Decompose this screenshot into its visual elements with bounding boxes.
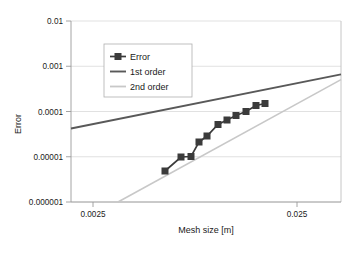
legend-swatch-error-marker [115, 53, 122, 60]
data-point-marker [233, 112, 240, 119]
data-point-marker [224, 117, 231, 124]
legend-label-2nd-order: 2nd order [130, 82, 169, 92]
x-tick-marks [93, 202, 297, 207]
x-tick-label-0.0025: 0.0025 [80, 210, 105, 219]
y-tick-label-1e-2: 0.01 [47, 17, 63, 26]
data-point-marker [196, 139, 203, 146]
loglog-convergence-chart: 0.01 0.001 0.0001 0.00001 0.000001 0.002… [0, 0, 356, 254]
legend-label-error: Error [130, 52, 150, 62]
data-point-marker [178, 154, 185, 161]
y-tick-label-1e-6: 0.000001 [29, 198, 64, 207]
data-point-marker [243, 108, 250, 115]
legend-label-1st-order: 1st order [130, 67, 166, 77]
x-tick-label-0.025: 0.025 [287, 210, 308, 219]
y-tick-marks [66, 21, 71, 202]
y-tick-label-1e-3: 0.001 [43, 62, 64, 71]
data-point-marker [215, 121, 222, 128]
data-point-marker [262, 100, 269, 107]
data-point-marker [162, 168, 169, 175]
y-tick-label-1e-4: 0.0001 [38, 108, 63, 117]
x-axis-title: Mesh size [m] [178, 225, 234, 235]
chart-figure: 0.01 0.001 0.0001 0.00001 0.000001 0.002… [0, 0, 356, 254]
y-tick-label-1e-5: 0.00001 [33, 153, 63, 162]
data-point-marker [253, 102, 260, 109]
y-axis-title: Error [13, 114, 23, 134]
data-point-marker [204, 133, 211, 140]
data-point-marker [188, 153, 195, 160]
